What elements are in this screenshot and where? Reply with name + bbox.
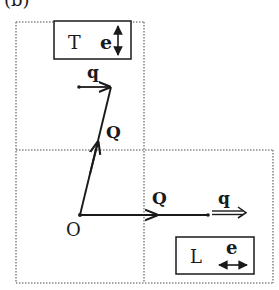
q-longitudinal-arrowhead-icon [238,207,246,218]
q-longitudinal-label: q [218,188,230,208]
origin-point [78,213,82,217]
transverse-box-frame [54,21,131,59]
transverse-mode-box: T e [54,21,131,59]
transverse-mode-label: T [68,31,81,53]
diagram-canvas: (b) T e q Q Q O q [0,0,279,290]
q-transverse-tail-dot [77,85,81,89]
Q-transverse-mid-arrow [90,142,98,174]
Q-longitudinal-vector: Q [80,188,210,217]
q-transverse-label: q [87,62,99,82]
longitudinal-polarization-label: e [226,237,237,258]
q-transverse-vector: q [77,62,110,89]
Q-longitudinal-end-dot [206,213,210,217]
panel-label: (b) [4,0,30,10]
longitudinal-mode-box: L e [176,237,254,274]
Q-transverse-label: Q [106,122,121,142]
transverse-polarization-label: e [100,31,112,53]
Q-longitudinal-label: Q [152,188,167,208]
longitudinal-box-frame [176,237,254,274]
longitudinal-mode-label: L [190,246,202,267]
Q-transverse-vector: Q [80,87,121,215]
origin-label: O [66,219,81,240]
q-longitudinal-vector: q [212,188,246,218]
